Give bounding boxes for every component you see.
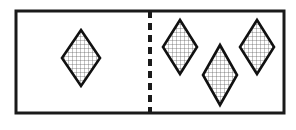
figure-canvas bbox=[0, 0, 296, 130]
partitioned-set-diagram bbox=[0, 0, 296, 130]
